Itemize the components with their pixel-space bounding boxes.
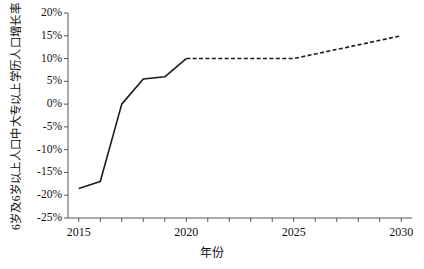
data-series-line <box>79 59 187 189</box>
data-series-group <box>79 36 402 189</box>
x-axis-tick-label: 2030 <box>378 226 424 238</box>
x-axis-tick-label: 2015 <box>56 226 102 238</box>
x-axis-title: 年份 <box>0 243 424 261</box>
x-axis-tick-label: 2020 <box>163 226 209 238</box>
y-axis-tick-marks <box>64 13 68 218</box>
x-axis-tick-marks <box>79 218 402 222</box>
data-series-line <box>186 36 401 59</box>
x-axis-tick-label: 2025 <box>271 226 317 238</box>
chart-figure: 6岁及6岁以上人口中大专以上学历人口增长率 20%15%10%5%0%-5%-1… <box>0 0 424 269</box>
